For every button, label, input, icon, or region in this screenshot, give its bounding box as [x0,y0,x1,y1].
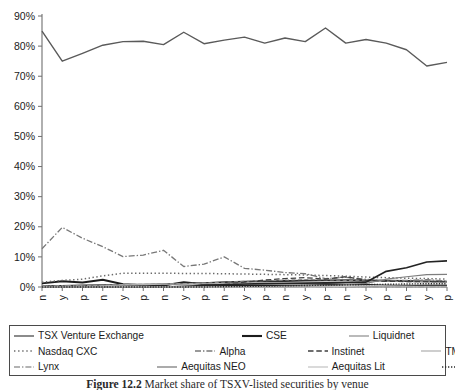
series-line [42,28,447,66]
y-axis-tick-label: 10% [14,251,35,263]
chart-legend: TSX Venture ExchangeCSELiquidnetMatch No… [9,325,446,376]
legend-item-label: Alpha [219,346,245,357]
legend-item[interactable]: Instinet [308,344,365,360]
legend-item-label: Lynx [38,361,59,372]
series-lines-group [42,28,447,287]
legend-item[interactable]: Nasdaq CXC [14,344,97,360]
x-axis-tick-label: 17-May [421,294,433,300]
x-axis-tick-label: 15-Jan [279,295,291,300]
x-axis-tick-label: 16-Sep [380,295,392,300]
legend-item[interactable]: Liquidnet [349,328,414,344]
legend-item[interactable]: Nasdaq CXD [442,359,455,375]
x-axis-tick-label: 11-Jan [36,295,48,300]
legend-item[interactable]: Alpha [195,344,245,360]
figure-caption-text: Market share of TSXV-listed securities b… [145,378,369,390]
legend-line-swatch [14,362,34,372]
x-axis-tick-label: 13-May [178,294,190,300]
legend-item[interactable]: Aequitas Lit [308,359,385,375]
legend-item-label: CSE [266,330,287,341]
legend-line-swatch [242,331,262,341]
legend-line-swatch [14,346,34,356]
y-axis-tick-label: 50% [14,130,35,142]
legend-item-label: Instinet [332,346,365,357]
legend-line-swatch [349,331,369,341]
x-axis-tick-label: 16-May [360,294,372,300]
legend-item-label: Aequitas Lit [332,361,385,372]
x-axis-tick-label: 11-Sep [77,295,89,300]
x-axis-tick-label: 14-Jan [218,295,230,300]
chart-plot-area: 0%10%20%30%40%50%60%70%80%90% 11-Jan11-M… [0,0,455,300]
x-axis-tick-label: 16-Jan [340,295,352,300]
figure-caption-number: Figure 12.2 [86,378,141,390]
y-axis-tick-label: 60% [14,100,35,112]
legend-line-swatch [308,346,328,356]
legend-item[interactable]: CSE [242,328,287,344]
legend-item[interactable]: Aequitas NEO [157,359,246,375]
y-axis-tick-label: 70% [14,70,35,82]
legend-line-swatch [442,362,455,372]
figure-container: 0%10%20%30%40%50%60%70%80%90% 11-Jan11-M… [0,0,455,390]
series-line [42,227,447,281]
x-axis-tick-label: 12-May [117,294,129,300]
legend-item[interactable]: TMX Select [421,344,455,360]
y-axis-tick-group: 0%10%20%30%40%50%60%70%80%90% [14,10,42,293]
legend-row: LynxAequitas NEOAequitas LitNasdaq CXD [14,359,441,375]
y-axis-tick-label: 90% [14,10,35,22]
legend-line-swatch [308,362,328,372]
x-axis-tick-label: 14-Sep [259,295,271,300]
x-axis-tick-label: 15-May [299,294,311,300]
x-axis-tick-label: 14-May [239,294,251,300]
figure-caption: Figure 12.2 Market share of TSXV-listed … [0,378,455,390]
y-axis-tick-label: 40% [14,160,35,172]
x-axis-tick-label: 13-Sep [198,295,210,300]
x-axis-tick-label: 12-Jan [97,295,109,300]
legend-row: TSX Venture ExchangeCSELiquidnetMatch No… [14,328,441,344]
legend-item-label: TMX Select [445,346,455,357]
x-axis-tick-label: 13-Jan [158,295,170,300]
y-axis-tick-label: 0% [20,281,35,293]
legend-item-label: TSX Venture Exchange [38,330,144,341]
legend-row: Nasdaq CXCAlphaInstinetTMX SelectNasdaq … [14,344,441,360]
legend-line-swatch [14,331,34,341]
legend-line-swatch [195,346,215,356]
x-axis-tick-label: 12-Sep [137,295,149,300]
x-axis-tick-label: 17-Sep [441,295,453,300]
x-axis-tick-label: 11-May [56,294,68,300]
legend-line-swatch [157,362,177,372]
y-axis-tick-label: 80% [14,40,35,52]
x-axis-tick-label: 15-Sep [320,295,332,300]
legend-item[interactable]: TSX Venture Exchange [14,328,144,344]
legend-item-label: Nasdaq CXC [38,346,97,357]
y-axis-tick-label: 30% [14,190,35,202]
x-axis-tick-label: 17-Jan [401,295,413,300]
legend-line-swatch [421,346,441,356]
legend-item-label: Aequitas NEO [181,361,246,372]
line-chart-svg: 0%10%20%30%40%50%60%70%80%90% 11-Jan11-M… [0,0,455,300]
y-axis-tick-label: 20% [14,220,35,232]
legend-item[interactable]: Lynx [14,359,59,375]
legend-item-label: Liquidnet [373,330,414,341]
x-axis-label-group: 11-Jan11-May11-Sep12-Jan12-May12-Sep13-J… [36,294,453,300]
